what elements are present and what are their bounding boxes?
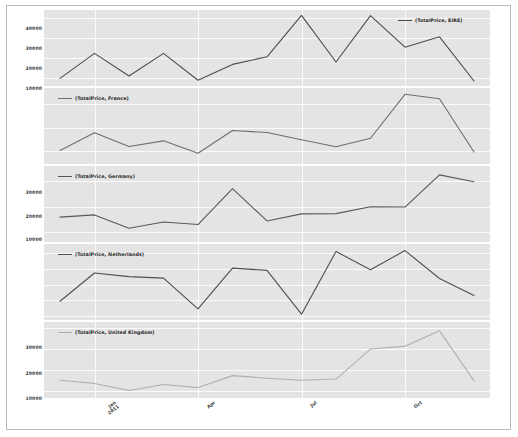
legend-label: (TotalPrice, Netherlands) (75, 252, 144, 257)
legend-line-swatch-icon (398, 20, 412, 21)
germany-panel: 100002000030000(TotalPrice, Germany) (0, 166, 518, 242)
legend-line-swatch-icon (58, 98, 72, 99)
xtick-label: Oct (413, 400, 423, 410)
legend-label: (TotalPrice, France) (75, 96, 129, 101)
eire-panel-legend: (TotalPrice, EIRE) (398, 18, 463, 23)
germany-panel-legend: (TotalPrice, Germany) (58, 174, 135, 179)
eire-panel-ytick-label: 40000 (26, 26, 42, 31)
legend-line-swatch-icon (58, 176, 72, 177)
eire-panel: 10000200003000040000(TotalPrice, EIRE) (0, 10, 518, 86)
xtick-label: Apr (206, 400, 216, 410)
xtick-label: Jan 2011 (103, 400, 120, 416)
united-kingdom-panel-legend: (TotalPrice, United Kingdom) (58, 330, 155, 335)
legend-label: (TotalPrice, United Kingdom) (75, 330, 155, 335)
france-panel: 100002000030000(TotalPrice, France) (0, 88, 518, 164)
netherlands-panel: 010000200003000040000(TotalPrice, Nether… (0, 244, 518, 320)
france-panel-legend: (TotalPrice, France) (58, 96, 129, 101)
eire-panel-ytick-label: 30000 (26, 46, 42, 51)
legend-label: (TotalPrice, EIRE) (415, 18, 463, 23)
netherlands-panel-legend: (TotalPrice, Netherlands) (58, 252, 144, 257)
xtick-label: Jul (309, 400, 317, 408)
legend-line-swatch-icon (58, 332, 72, 333)
x-axis: Jan 2011AprJulOct (0, 396, 518, 437)
united-kingdom-panel: 4000006000008000001000000(TotalPrice, Un… (0, 322, 518, 398)
legend-label: (TotalPrice, Germany) (75, 174, 135, 179)
legend-line-swatch-icon (58, 254, 72, 255)
eire-panel-ytick-label: 20000 (26, 66, 42, 71)
chart-figure: 10000200003000040000(TotalPrice, EIRE)10… (0, 0, 518, 437)
